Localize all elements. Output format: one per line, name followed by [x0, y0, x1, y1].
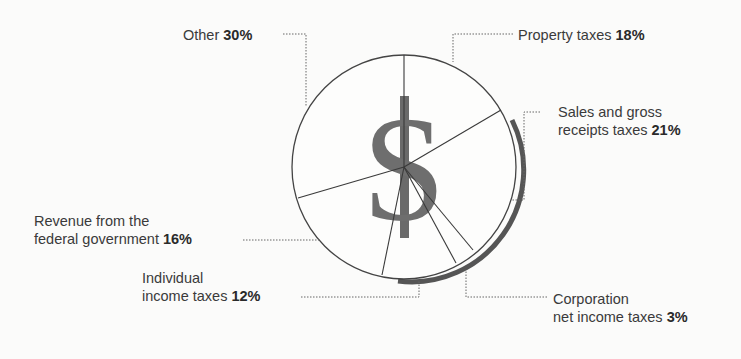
- label-percent: 30%: [223, 27, 252, 43]
- label-text: Revenue from the: [34, 212, 192, 230]
- label-other: Other 30%: [183, 26, 252, 44]
- label-text: net income taxes: [553, 309, 667, 325]
- label-percent: 18%: [616, 27, 645, 43]
- label-percent: 16%: [163, 231, 192, 247]
- label-text: Sales and gross: [558, 103, 681, 121]
- label-percent: 3%: [667, 309, 688, 325]
- label-text: federal government: [34, 231, 163, 247]
- label-text: Individual: [142, 269, 261, 287]
- label-text: receipts taxes: [558, 122, 652, 138]
- label-text: income taxes: [142, 288, 231, 304]
- label-percent: 21%: [652, 122, 681, 138]
- label-individual-income-taxes: Individual income taxes 12%: [142, 269, 261, 305]
- label-percent: 12%: [231, 288, 260, 304]
- label-text: Other: [183, 27, 223, 43]
- label-property-taxes: Property taxes 18%: [518, 26, 645, 44]
- label-sales-taxes: Sales and gross receipts taxes 21%: [558, 103, 681, 139]
- label-text: Property taxes: [518, 27, 616, 43]
- label-corporation-taxes: Corporation net income taxes 3%: [553, 290, 688, 326]
- label-federal-revenue: Revenue from the federal government 16%: [34, 212, 192, 248]
- label-text: Corporation: [553, 290, 688, 308]
